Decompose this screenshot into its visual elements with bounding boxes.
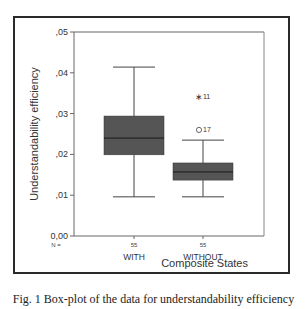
- y-axis-label: Understandability efficiency: [28, 67, 40, 201]
- boxes: 17∗11: [104, 67, 233, 197]
- y-ticks: ,05,04,03,02,010,00: [50, 27, 74, 241]
- n-count: 55: [131, 242, 138, 248]
- iqr-box: [104, 116, 164, 155]
- box-without: 17∗11: [173, 92, 233, 197]
- y-tick-label: ,01: [55, 190, 68, 200]
- y-tick-label: ,03: [55, 109, 68, 119]
- outlier-circle-icon: [196, 127, 201, 132]
- box-with: [104, 67, 164, 197]
- outlier-label: 17: [203, 126, 211, 133]
- y-tick-label: ,02: [55, 149, 68, 159]
- figure-caption: Fig. 1 Box-plot of the data for understa…: [0, 292, 307, 307]
- x-axis-label: Composite States: [161, 257, 248, 269]
- y-tick-label: 0,00: [50, 231, 68, 241]
- y-tick-label: ,05: [55, 27, 68, 37]
- outlier-label: 11: [203, 93, 210, 100]
- n-label: N =: [51, 242, 61, 248]
- y-tick-label: ,04: [55, 68, 68, 78]
- category-label: WITH: [123, 252, 145, 262]
- extreme-star-icon: ∗: [195, 92, 203, 102]
- n-count: 55: [200, 242, 207, 248]
- boxplot-chart: ,05,04,03,02,010,00 Understandability ef…: [0, 0, 307, 309]
